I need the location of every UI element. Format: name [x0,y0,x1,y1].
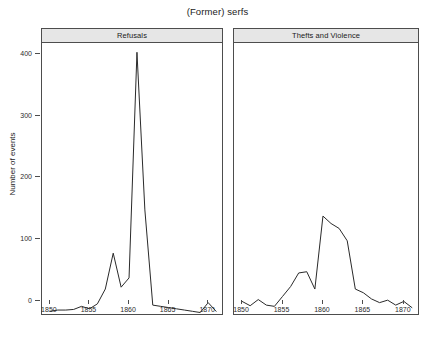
panel-strip-label-thefts-violence: Thefts and Violence [233,28,419,43]
data-line [242,216,412,307]
x-tick-mark [362,300,363,304]
x-tick-mark [49,300,50,304]
y-tick-mark [35,176,40,177]
plot-svg-refusals [42,43,223,315]
panel-refusals: Refusals [41,28,223,315]
plot-area-thefts-violence [233,43,419,315]
x-tick-label: 1850 [233,306,249,313]
y-tick-mark [35,300,40,301]
plot-svg-thefts-violence [234,43,419,315]
data-line [50,52,216,312]
x-tick-mark [322,300,323,304]
x-tick-mark [403,300,404,304]
x-tick-mark [241,300,242,304]
x-tick-label: 1855 [274,306,290,313]
x-tick-label: 1865 [355,306,371,313]
x-tick-label: 1870 [199,306,215,313]
x-tick-label: 1850 [41,306,57,313]
chart-figure: (Former) serfs Number of events 01002003… [0,0,435,342]
x-axis-refusals: 18501855186018651870 [41,300,223,324]
y-tick-mark [35,53,40,54]
y-axis-label: Number of events [8,94,17,234]
x-tick-mark [168,300,169,304]
y-tick-label: 300 [20,111,32,118]
panel-thefts-violence: Thefts and Violence [233,28,419,315]
x-tick-label: 1855 [81,306,97,313]
x-tick-mark [207,300,208,304]
y-tick-label: 0 [28,297,32,304]
x-tick-label: 1870 [395,306,411,313]
y-axis: Number of events 0100200300400 [0,28,41,300]
x-tick-mark [282,300,283,304]
x-tick-mark [88,300,89,304]
y-tick-mark [35,238,40,239]
y-tick-label: 100 [20,235,32,242]
y-tick-label: 400 [20,49,32,56]
x-tick-label: 1865 [160,306,176,313]
chart-title: (Former) serfs [0,6,435,17]
x-tick-label: 1860 [120,306,136,313]
x-tick-mark [128,300,129,304]
y-tick-label: 200 [20,173,32,180]
x-axis-thefts-violence: 18501855186018651870 [233,300,419,324]
panel-strip-label-refusals: Refusals [41,28,223,43]
plot-area-refusals [41,43,223,315]
y-tick-mark [35,115,40,116]
x-tick-label: 1860 [314,306,330,313]
